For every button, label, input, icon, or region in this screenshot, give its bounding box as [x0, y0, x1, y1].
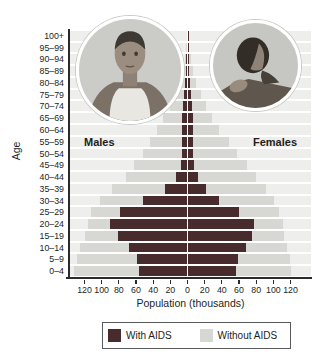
bar-male-with-aids — [143, 196, 188, 206]
age-label: 65–69 — [28, 113, 64, 123]
bar-female-with-aids — [188, 101, 192, 111]
age-label: 40–44 — [28, 172, 64, 182]
bar-female-with-aids — [188, 160, 195, 170]
x-tick — [204, 280, 205, 284]
x-tick — [153, 280, 154, 284]
bar-female-with-aids — [188, 231, 252, 241]
age-label: 70–74 — [28, 101, 64, 111]
bar-female-with-aids — [188, 125, 193, 135]
x-tick — [135, 280, 136, 284]
legend-item-without-aids: Without AIDS — [200, 329, 277, 342]
bar-male-with-aids — [129, 243, 187, 253]
bar-male-with-aids — [165, 184, 187, 194]
bar-female-without-aids — [188, 160, 247, 170]
bar-female-with-aids — [188, 137, 193, 147]
bar-male-with-aids — [118, 231, 188, 241]
age-label: 15–19 — [28, 231, 64, 241]
age-axis-labels: 100+95–9990–9485–8980–8475–7970–7465–696… — [28, 30, 66, 277]
legend-label-without-aids: Without AIDS — [218, 330, 277, 341]
age-label: 75–79 — [28, 90, 64, 100]
bar-female-without-aids — [188, 172, 257, 182]
bar-female-with-aids — [188, 196, 220, 206]
females-label: Females — [253, 136, 297, 148]
x-tick — [290, 280, 291, 284]
bar-female-with-aids — [188, 243, 246, 253]
bar-male-with-aids — [137, 254, 188, 264]
x-tick — [118, 280, 119, 284]
x-axis-line — [66, 277, 312, 279]
x-tick — [256, 280, 257, 284]
male-portrait-photo — [76, 16, 184, 124]
legend-label-with-aids: With AIDS — [126, 330, 172, 341]
bar-male-with-aids — [176, 172, 187, 182]
bar-female-with-aids — [188, 184, 207, 194]
age-label: 100+ — [28, 31, 64, 41]
x-tick-label: 120 — [278, 285, 304, 295]
age-label: 85–89 — [28, 66, 64, 76]
bar-female-with-aids — [188, 219, 254, 229]
age-label: 55–59 — [28, 137, 64, 147]
female-portrait-photo — [210, 20, 301, 111]
center-divider-line — [187, 30, 188, 277]
bar-female-with-aids — [188, 254, 239, 264]
bar-male-without-aids — [143, 149, 188, 159]
bar-female-with-aids — [188, 113, 193, 123]
age-label: 95–99 — [28, 43, 64, 53]
y-axis-line — [68, 29, 70, 279]
bar-male-with-aids — [139, 266, 188, 276]
bar-female-with-aids — [188, 149, 193, 159]
age-label: 5–9 — [28, 254, 64, 264]
age-label: 50–54 — [28, 149, 64, 159]
x-tick — [170, 280, 171, 284]
age-label: 0–4 — [28, 266, 64, 276]
population-pyramid-figure: 12010080604020020406080100120 100+95–999… — [0, 0, 324, 359]
bar-female-with-aids — [188, 172, 198, 182]
age-label: 20–24 — [28, 219, 64, 229]
y-axis-title: Age — [10, 134, 22, 168]
bar-female-without-aids — [188, 137, 229, 147]
bar-male-with-aids — [120, 207, 188, 217]
age-label: 80–84 — [28, 78, 64, 88]
x-tick — [273, 280, 274, 284]
age-label: 30–34 — [28, 196, 64, 206]
x-tick — [101, 280, 102, 284]
males-label: Males — [84, 136, 115, 148]
bar-female-with-aids — [188, 266, 236, 276]
x-tick — [84, 280, 85, 284]
bar-male-without-aids — [134, 160, 187, 170]
legend-item-with-aids: With AIDS — [108, 329, 172, 342]
x-tick — [221, 280, 222, 284]
age-label: 45–49 — [28, 160, 64, 170]
age-label: 35–39 — [28, 184, 64, 194]
age-label: 10–14 — [28, 243, 64, 253]
x-tick — [238, 280, 239, 284]
x-axis-title: Population (thousands) — [70, 297, 311, 309]
bar-male-with-aids — [110, 219, 187, 229]
without-aids-swatch — [200, 329, 213, 342]
age-label: 25–29 — [28, 207, 64, 217]
age-label: 90–94 — [28, 54, 64, 64]
bar-female-with-aids — [188, 207, 240, 217]
age-label: 60–64 — [28, 125, 64, 135]
bar-female-with-aids — [188, 90, 191, 100]
bar-female-without-aids — [188, 149, 238, 159]
legend: With AIDS Without AIDS — [102, 322, 291, 349]
with-aids-swatch — [108, 329, 121, 342]
x-tick — [187, 280, 188, 284]
